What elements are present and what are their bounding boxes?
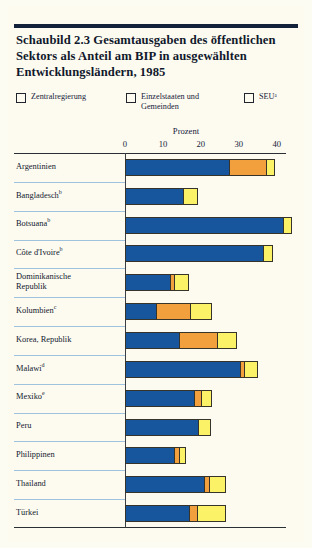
- chart-row: Argentinien: [0, 153, 312, 182]
- row-label-bangladesch: Bangladeschb: [16, 191, 122, 201]
- segment-seu: [179, 448, 185, 463]
- segment-seu: [183, 189, 197, 204]
- row-label-philippinen: Philippinen: [16, 450, 122, 460]
- segment-seu: [244, 362, 257, 377]
- bar: [125, 390, 212, 407]
- legend-item-central-government: Zentralregierung: [16, 92, 121, 102]
- row-label-t-rkei: Türkei: [16, 508, 122, 518]
- row-separator: [14, 413, 125, 414]
- legend-swatch-seu: [244, 93, 254, 103]
- segment-seu: [283, 218, 291, 233]
- segment-central-government: [126, 218, 283, 233]
- row-separator: [14, 182, 125, 183]
- segment-seu: [174, 275, 188, 290]
- bar: [125, 217, 292, 234]
- row-label-peru: Peru: [16, 421, 122, 431]
- chart-legend: Zentralregierung Einzelstaaten und Gemei…: [16, 92, 298, 122]
- x-axis-tick-labels: 010203040: [0, 139, 312, 151]
- row-separator: [14, 326, 125, 327]
- bar: [125, 476, 226, 493]
- segment-central-government: [126, 477, 204, 492]
- row-separator: [14, 355, 125, 356]
- segment-states-municipalities: [179, 333, 217, 348]
- chart-row: Philippinen: [0, 441, 312, 470]
- row-label-mexiko: Mexikoe: [16, 392, 122, 402]
- segment-central-government: [126, 189, 183, 204]
- row-separator: [14, 240, 125, 241]
- row-label-argentinien: Argentinien: [16, 162, 122, 172]
- chart-row: Bangladeschb: [0, 182, 312, 211]
- row-label-kolumbien: Kolumbienc: [16, 306, 122, 316]
- segment-states-municipalities: [194, 391, 201, 406]
- row-separator: [14, 297, 125, 298]
- chart-row: Kolumbienc: [0, 297, 312, 326]
- row-separator: [14, 268, 125, 269]
- plot-area: ArgentinienBangladeschbBotsuanabCôte d'I…: [0, 153, 312, 528]
- segment-states-municipalities: [229, 160, 266, 175]
- segment-states-municipalities: [189, 506, 197, 521]
- segment-seu: [198, 420, 211, 435]
- chart-row: Thailand: [0, 470, 312, 499]
- x-axis-title: Prozent: [0, 126, 312, 136]
- x-axis-title-text: Prozent: [173, 126, 199, 136]
- legend-item-states-municipalities: Einzelstaaten und Gemeinden: [126, 92, 236, 112]
- segment-central-government: [126, 448, 174, 463]
- segment-seu: [201, 391, 211, 406]
- segment-central-government: [126, 391, 194, 406]
- row-label-korea-republik: Korea, Republik: [16, 335, 122, 345]
- segment-central-government: [126, 304, 156, 319]
- x-tick-30: 30: [234, 139, 243, 149]
- x-tick-0: 0: [123, 139, 127, 149]
- chart-row: Türkei: [0, 499, 312, 528]
- row-separator: [14, 441, 125, 442]
- row-label-dominikanische-republik: DominikanischeRepublik: [16, 272, 122, 293]
- row-separator: [14, 499, 125, 500]
- segment-central-government: [126, 333, 179, 348]
- segment-central-government: [126, 246, 263, 261]
- segment-seu: [209, 477, 224, 492]
- chart-row: Malawid: [0, 355, 312, 384]
- title-rule: [14, 24, 298, 28]
- legend-item-seu: SEUᵃ: [244, 92, 298, 102]
- segment-central-government: [126, 362, 240, 377]
- x-tick-40: 40: [272, 139, 281, 149]
- segment-seu: [266, 160, 274, 175]
- segment-central-government: [126, 160, 229, 175]
- chart-row: Mexikoe: [0, 384, 312, 413]
- bar: [125, 159, 275, 176]
- chart-row: Peru: [0, 413, 312, 442]
- row-separator: [14, 470, 125, 471]
- row-separator: [14, 211, 125, 212]
- segment-central-government: [126, 420, 198, 435]
- segment-states-municipalities: [156, 304, 191, 319]
- segment-central-government: [126, 275, 170, 290]
- row-separator: [14, 384, 125, 385]
- bar: [125, 303, 212, 320]
- legend-swatch-central-government: [16, 93, 26, 103]
- bar: [125, 245, 273, 262]
- bar: [125, 332, 237, 349]
- bar: [125, 361, 258, 378]
- row-label-malawi: Malawid: [16, 364, 122, 374]
- row-label-botsuana: Botsuanab: [16, 219, 122, 229]
- chart-row: Botsuanab: [0, 211, 312, 240]
- chart-figure: Schaubild 2.3 Gesamtausgaben des öffentl…: [0, 0, 312, 548]
- bar: [125, 447, 186, 464]
- segment-seu: [190, 304, 210, 319]
- segment-seu: [217, 333, 236, 348]
- chart-row: Korea, Republik: [0, 326, 312, 355]
- row-label-thailand: Thailand: [16, 479, 122, 489]
- segment-seu: [263, 246, 272, 261]
- x-tick-20: 20: [197, 139, 206, 149]
- chart-row: DominikanischeRepublik: [0, 268, 312, 297]
- segment-seu: [197, 506, 225, 521]
- legend-swatch-states-municipalities: [126, 93, 136, 103]
- x-tick-10: 10: [159, 139, 168, 149]
- bar: [125, 505, 226, 522]
- legend-label-states-municipalities: Einzelstaaten und Gemeinden: [141, 92, 236, 112]
- bar: [125, 419, 211, 436]
- bar: [125, 188, 198, 205]
- page-title: Schaubild 2.3 Gesamtausgaben des öffentl…: [16, 32, 292, 81]
- bar: [125, 274, 189, 291]
- row-label-c-te-d-ivoire: Côte d'Ivoireb: [16, 248, 122, 258]
